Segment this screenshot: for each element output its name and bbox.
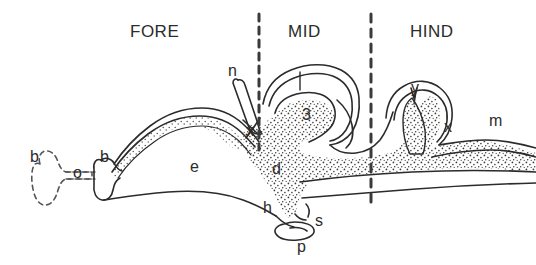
label-olfactory-bulb: b: [100, 148, 109, 166]
label-pituitary: p: [297, 238, 306, 256]
label-olfactory-tract: o: [73, 164, 82, 182]
region-label-fore: FORE: [130, 22, 179, 42]
midbrain-hindbrain-fold: [330, 100, 393, 153]
region-label-hind: HIND: [410, 22, 454, 42]
label-hypothalamus: h: [263, 199, 272, 217]
label-cerebellum: y: [411, 79, 419, 97]
region-label-mid: MID: [288, 22, 321, 42]
forebrain-ventral-floor: [104, 191, 276, 216]
pituitary-body: [275, 222, 314, 240]
leader-ticks: [300, 72, 416, 104]
diagram-linework: [32, 14, 536, 240]
label-diencephalon: d: [272, 160, 281, 178]
label-optic-nerve: n: [228, 62, 237, 80]
label-cerebral-hemisphere: e: [190, 158, 199, 176]
label-optic-chiasma: x: [246, 122, 254, 140]
label-olfactory-bulb-outline: b: [30, 148, 39, 166]
label-fourth-ventricle: x: [444, 118, 452, 136]
olfactory-bulb-dashed-outline: [32, 151, 92, 205]
label-infundibulum: s: [315, 212, 323, 230]
brain-sagittal-diagram: FORE MID HIND b o b e n x 3 d h s p y x …: [0, 0, 536, 265]
diagram-canvas: [0, 0, 536, 265]
label-medulla: m: [489, 112, 502, 130]
label-third-ventricle: 3: [302, 106, 311, 124]
